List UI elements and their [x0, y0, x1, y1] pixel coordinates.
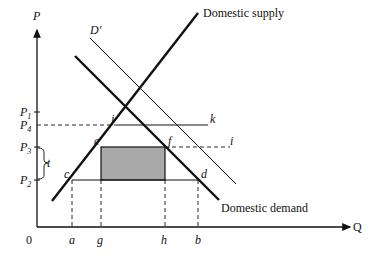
price-label-p2: P2	[19, 173, 31, 189]
point-label-f: f	[168, 134, 173, 148]
tariff-diagram: P Q 0 P1 P4 P3 P2 t a g h b Domestic sup…	[0, 0, 374, 258]
tariff-label: t	[47, 156, 51, 170]
origin-label: 0	[26, 233, 32, 247]
quantity-label-h: h	[161, 233, 167, 247]
svg-text:P2: P2	[19, 173, 31, 189]
diagram-canvas: P Q 0 P1 P4 P3 P2 t a g h b Domestic sup…	[0, 0, 374, 258]
point-label-c: c	[64, 167, 70, 181]
y-axis-label: P	[32, 9, 41, 23]
point-label-d: d	[201, 167, 208, 181]
price-label-p3: P3	[19, 140, 31, 156]
point-label-e: e	[94, 134, 100, 148]
tariff-revenue-area	[101, 147, 165, 180]
quantity-label-a: a	[69, 233, 75, 247]
quantity-label-b: b	[195, 233, 201, 247]
x-axis-label: Q	[353, 220, 362, 234]
shifted-demand-label: D′	[89, 23, 102, 37]
point-label-j: j	[109, 112, 115, 126]
point-label-i: i	[230, 134, 233, 148]
domestic-supply-label: Domestic supply	[203, 6, 284, 20]
svg-text:P3: P3	[19, 140, 31, 156]
point-label-k: k	[210, 112, 216, 126]
domestic-demand-label: Domestic demand	[221, 201, 308, 215]
quantity-label-g: g	[97, 233, 103, 247]
